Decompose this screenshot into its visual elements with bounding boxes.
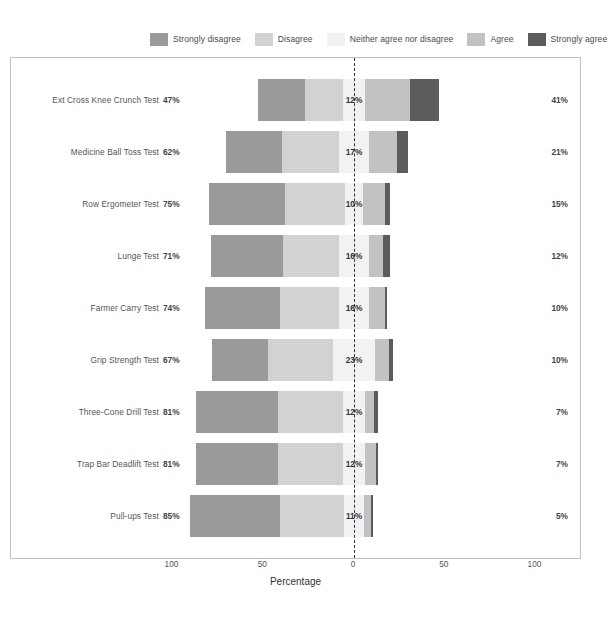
segment-disagree[interactable]	[278, 443, 343, 485]
legend-item[interactable]: Agree	[467, 33, 527, 46]
chart-row[interactable]: Lunge Test71%12%16%	[11, 230, 580, 282]
bar-rows: Ext Cross Knee Crunch Test47%41%12%Medic…	[11, 58, 580, 558]
legend-item[interactable]: Strongly agree	[528, 33, 612, 46]
stacked-bar[interactable]	[11, 79, 580, 121]
stacked-bar[interactable]	[11, 235, 580, 277]
x-axis: 10050050100	[10, 559, 581, 573]
legend-item[interactable]: Neither agree nor disagree	[327, 33, 468, 46]
chart-row[interactable]: Ext Cross Knee Crunch Test47%41%12%	[11, 74, 580, 126]
chart-row[interactable]: Grip Strength Test67%10%23%	[11, 334, 580, 386]
chart-row[interactable]: Trap Bar Deadlift Test81%7%12%	[11, 438, 580, 490]
plot-panel: Ext Cross Knee Crunch Test47%41%12%Medic…	[10, 57, 581, 559]
legend-label: Disagree	[278, 34, 313, 44]
segment-agree[interactable]	[375, 339, 390, 381]
segment-strongly-agree[interactable]	[410, 79, 439, 121]
segment-disagree[interactable]	[278, 391, 343, 433]
chart-row[interactable]: Row Ergometer Test75%15%10%	[11, 178, 580, 230]
segment-strongly-agree[interactable]	[385, 287, 387, 329]
segment-strongly-disagree[interactable]	[209, 183, 285, 225]
stacked-bar[interactable]	[11, 391, 580, 433]
segment-strongly-agree[interactable]	[376, 443, 378, 485]
segment-strongly-agree[interactable]	[389, 339, 393, 381]
x-axis-label: Percentage	[0, 576, 591, 587]
stacked-bar[interactable]	[11, 131, 580, 173]
legend-label: Neither agree nor disagree	[350, 34, 454, 44]
legend-item[interactable]: Disagree	[255, 33, 327, 46]
x-axis-tick-label: 50	[258, 559, 267, 569]
segment-strongly-agree[interactable]	[383, 235, 390, 277]
legend-swatch-icon	[150, 33, 168, 46]
segment-agree[interactable]	[365, 79, 410, 121]
segment-strongly-disagree[interactable]	[196, 443, 278, 485]
legend-swatch-icon	[327, 33, 345, 46]
stacked-bar[interactable]	[11, 339, 580, 381]
chart-legend: Strongly disagreeDisagreeNeither agree n…	[150, 29, 570, 49]
segment-agree[interactable]	[363, 183, 385, 225]
stacked-bar[interactable]	[11, 443, 580, 485]
legend-swatch-icon	[467, 33, 485, 46]
segment-agree[interactable]	[369, 235, 384, 277]
segment-agree[interactable]	[369, 287, 385, 329]
segment-strongly-agree[interactable]	[385, 183, 390, 225]
legend-swatch-icon	[528, 33, 546, 46]
segment-disagree[interactable]	[280, 287, 340, 329]
legend-label: Agree	[490, 34, 513, 44]
segment-agree[interactable]	[364, 495, 371, 537]
chart-row[interactable]: Three-Cone Drill Test81%7%12%	[11, 386, 580, 438]
segment-disagree[interactable]	[268, 339, 333, 381]
legend-swatch-icon	[255, 33, 273, 46]
legend-label: Strongly disagree	[173, 34, 241, 44]
segment-strongly-agree[interactable]	[374, 391, 378, 433]
legend-label: Strongly agree	[551, 34, 608, 44]
segment-strongly-disagree[interactable]	[190, 495, 281, 537]
segment-strongly-disagree[interactable]	[196, 391, 278, 433]
x-axis-tick-label: 50	[439, 559, 448, 569]
segment-strongly-disagree[interactable]	[211, 235, 284, 277]
x-axis-tick-label: 100	[528, 559, 542, 569]
segment-agree[interactable]	[365, 443, 376, 485]
x-axis-tick-label: 100	[165, 559, 179, 569]
segment-strongly-disagree[interactable]	[226, 131, 282, 173]
segment-strongly-disagree[interactable]	[258, 79, 305, 121]
segment-disagree[interactable]	[305, 79, 343, 121]
segment-agree[interactable]	[369, 131, 396, 173]
stacked-bar[interactable]	[11, 495, 580, 537]
segment-disagree[interactable]	[285, 183, 345, 225]
segment-disagree[interactable]	[283, 235, 339, 277]
segment-strongly-disagree[interactable]	[205, 287, 279, 329]
x-axis-tick-label: 0	[351, 559, 356, 569]
segment-strongly-agree[interactable]	[397, 131, 408, 173]
chart-row[interactable]: Pull-ups Test85%5%11%	[11, 490, 580, 542]
stacked-bar[interactable]	[11, 287, 580, 329]
chart-row[interactable]: Farmer Carry Test74%10%16%	[11, 282, 580, 334]
segment-strongly-disagree[interactable]	[212, 339, 268, 381]
zero-reference-line	[354, 58, 355, 558]
segment-strongly-agree[interactable]	[371, 495, 373, 537]
chart-row[interactable]: Medicine Ball Toss Test62%21%17%	[11, 126, 580, 178]
segment-disagree[interactable]	[282, 131, 338, 173]
stacked-bar[interactable]	[11, 183, 580, 225]
segment-agree[interactable]	[365, 391, 374, 433]
segment-disagree[interactable]	[280, 495, 344, 537]
legend-item[interactable]: Strongly disagree	[150, 33, 255, 46]
